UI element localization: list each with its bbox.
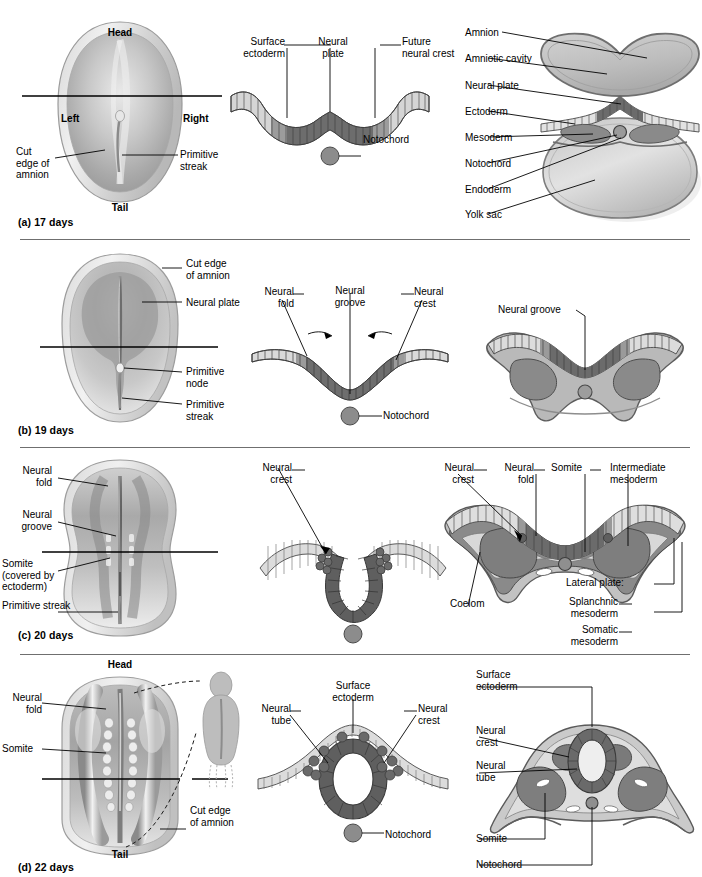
neural-plate-cross-section <box>225 78 435 173</box>
fetus-leg-inner-left <box>216 765 217 789</box>
label-somite-c-right: Somite <box>551 462 582 474</box>
stage-row-c: Neuralfold Neuralgroove Somite(covered b… <box>0 448 702 655</box>
label-neural-fold-c-right: Neuralfold <box>492 462 534 485</box>
label-neural-crest-d: Neuralcrest <box>418 703 447 726</box>
leader-neural-crest-dash-d <box>404 707 418 717</box>
label-somite-d: Somite <box>2 743 33 755</box>
neural-groove-cross-section <box>250 332 450 422</box>
label-somite-d-right: Somite <box>476 833 507 845</box>
label-primitive-streak-c: Primitive streak <box>2 600 70 612</box>
orientation-tail-a: Tail <box>75 202 165 214</box>
arrow-right-head <box>368 332 376 339</box>
lateral-bulge-right <box>139 709 165 753</box>
label-somatic-mesoderm-c: Somaticmesoderm <box>533 624 618 647</box>
label-neural-tube-d: Neuraltube <box>251 703 291 726</box>
notochord-circle <box>344 625 362 643</box>
label-intermediate-mesoderm-c: Intermediatemesoderm <box>610 462 666 485</box>
notochord-circle <box>559 558 572 571</box>
lateral-bulge-left <box>75 709 101 753</box>
label-neural-fold-b: Neuralfold <box>252 286 294 309</box>
label-neural-crest-c-mid: Neuralcrest <box>250 462 292 485</box>
label-neural-plate-b: Neural plate <box>186 297 240 309</box>
leader-splanchnic-dash-c <box>619 600 633 610</box>
label-endoderm-a: Endoderm <box>465 184 511 196</box>
embryo-with-amnion-cross-section <box>535 32 702 222</box>
label-neural-crest-d-right: Neuralcrest <box>476 725 505 748</box>
label-neural-groove-b: Neuralgroove <box>320 285 380 308</box>
neural-groove-u <box>326 554 383 623</box>
fetus-leg-inner-right <box>225 765 226 789</box>
primitive-streak <box>119 596 120 624</box>
label-mesoderm-a: Mesoderm <box>465 132 512 144</box>
label-neural-plate-a-right: Neural plate <box>465 80 519 92</box>
stage-row-b: Cut edgeof amnion Neural plate Primitive… <box>0 240 702 448</box>
label-cut-edge-amnion-a: Cut edge of amnion <box>16 146 49 181</box>
label-neural-groove-b-right: Neural groove <box>498 304 561 316</box>
neural-tube-lumen <box>333 753 373 805</box>
primitive-node <box>116 363 124 373</box>
label-surface-ectoderm-a: Surface ectoderm <box>233 36 285 59</box>
caption-a: (a) 17 days <box>18 216 73 228</box>
label-cut-edge-amnion-b: Cut edgeof amnion <box>186 258 230 281</box>
notochord-circle <box>321 147 339 165</box>
leader-neural-crest-dash-c-right <box>474 466 488 476</box>
fetus-silhouette-inset <box>191 671 251 791</box>
label-neural-plate-a: Neural plate <box>303 36 363 59</box>
label-neural-tube-d-right: Neuraltube <box>476 760 505 783</box>
label-coelom-c: Coelom <box>450 598 484 610</box>
leader-somite-dash-c-right <box>590 466 602 476</box>
orientation-right-a: Right <box>183 113 209 125</box>
label-neural-groove-c: Neuralgroove <box>2 509 52 532</box>
notochord-circle <box>578 385 592 399</box>
caption-b: (b) 19 days <box>18 424 74 436</box>
orientation-tail-d: Tail <box>75 849 165 861</box>
caption-d: (d) 22 days <box>18 861 74 873</box>
notochord-circle <box>344 824 362 842</box>
fetus-spine <box>221 699 222 759</box>
fetus-leg-right <box>231 765 233 789</box>
stage-row-d: Head Tail Neuralfold Somite Cut edgeof a… <box>0 655 702 877</box>
orientation-left-a: Left <box>61 113 79 125</box>
notochord-circle <box>614 126 627 139</box>
stage-row-a: Head Tail Left Right Cut edge of amnion … <box>0 0 702 240</box>
neural-crest-cross-section <box>258 510 448 640</box>
label-primitive-streak-b: Primitivestreak <box>186 399 224 422</box>
primitive-node <box>116 111 125 122</box>
label-notochord-d: Notochord <box>385 829 431 841</box>
label-notochord-a: Notochord <box>363 134 409 146</box>
label-lateral-plate-c: Lateral plate: <box>566 577 624 589</box>
label-neural-crest-c-right: Neuralcrest <box>430 462 474 485</box>
caption-c: (c) 20 days <box>18 629 73 641</box>
notochord-circle <box>341 407 359 425</box>
leader-neural-crest-dash-c <box>292 466 306 476</box>
label-yolk-sac-a: Yolk sac <box>465 209 502 221</box>
neural-crest-cells <box>316 548 392 574</box>
orientation-head-d: Head <box>75 659 165 671</box>
neurulation-figure: Head Tail Left Right Cut edge of amnion … <box>0 0 702 877</box>
label-primitive-streak-a: Primitive streak <box>180 149 218 172</box>
label-notochord-a-right: Notochord <box>465 158 511 170</box>
leader-neural-fold-dash-b <box>293 290 305 300</box>
label-notochord-b: Notochord <box>383 410 429 422</box>
label-primitive-node-b: Primitivenode <box>186 366 224 389</box>
label-somite-c: Somite(covered byectoderm) <box>2 558 74 593</box>
arrow-left-head <box>324 332 332 339</box>
label-neural-crest-b: Neuralcrest <box>414 286 443 309</box>
neural-crest-nodule-right <box>604 534 613 543</box>
label-cut-edge-amnion-d: Cut edgeof amnion <box>190 805 234 828</box>
label-surface-ectoderm-d-right: Surfaceectoderm <box>476 669 518 692</box>
neural-tube-full-cross-section <box>485 699 700 859</box>
label-amnion-a: Amnion <box>465 27 499 39</box>
label-notochord-d-right: Notochord <box>476 859 522 871</box>
label-ectoderm-a: Ectoderm <box>465 106 508 118</box>
leader-somatic-dash-c <box>619 628 633 638</box>
primitive-streak <box>119 374 120 408</box>
neural-tube-cross-section <box>256 717 451 842</box>
label-amniotic-cavity-a: Amniotic cavity <box>465 53 532 65</box>
neural-tube-lumen <box>578 740 606 782</box>
neural-groove-full-cross-section <box>480 320 690 435</box>
orientation-head-a: Head <box>75 27 165 39</box>
leader-neural-crest-dash-b <box>401 290 415 300</box>
leader-neural-fold-dash-c-right <box>534 466 546 476</box>
neural-crest-left <box>296 332 306 422</box>
